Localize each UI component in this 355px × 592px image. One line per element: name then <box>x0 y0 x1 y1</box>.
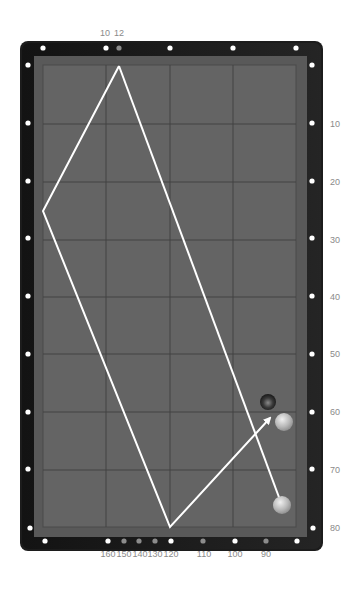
diamond-icon <box>25 466 30 471</box>
diamond-icon <box>309 351 314 356</box>
diamond-icon <box>25 351 30 356</box>
right-label: 60 <box>330 407 340 417</box>
bottom-label: 140 <box>132 549 147 559</box>
diamond-icon <box>168 538 173 543</box>
diamond-icon <box>309 466 314 471</box>
bottom-label: 160 <box>100 549 115 559</box>
bottom-label: 90 <box>261 549 271 559</box>
diamond-icon <box>309 62 314 67</box>
diamond-icon <box>309 409 314 414</box>
diamond-icon <box>25 409 30 414</box>
diamond-icon <box>230 45 235 50</box>
bottom-label: 110 <box>197 549 211 559</box>
diamond-icon <box>42 538 47 543</box>
diamond-icon <box>25 178 30 183</box>
right-label: 70 <box>330 465 340 475</box>
right-labels: 10 20 30 40 50 60 70 80 <box>330 119 340 533</box>
diamond-icon <box>103 45 108 50</box>
marker-icon <box>152 538 157 543</box>
bottom-label: 130 <box>147 549 162 559</box>
right-label: 10 <box>330 119 340 129</box>
diamond-icon <box>232 538 237 543</box>
aim-marker-icon <box>116 45 121 50</box>
right-label: 30 <box>330 235 340 245</box>
right-label: 80 <box>330 523 340 533</box>
diamond-icon <box>293 45 298 50</box>
diamond-icon <box>25 120 30 125</box>
top-label: 10 <box>100 28 110 38</box>
billiard-table-view: 10 12 10 20 30 40 50 60 70 80 160 150 14… <box>0 0 355 592</box>
diamond-icon <box>40 45 45 50</box>
diamond-icon <box>167 45 172 50</box>
diamond-icon <box>309 235 314 240</box>
diamond-icon <box>310 525 315 530</box>
diamond-icon <box>294 538 299 543</box>
dark-ball[interactable] <box>260 394 276 410</box>
billiard-table-svg: 10 12 10 20 30 40 50 60 70 80 160 150 14… <box>0 0 355 592</box>
diamond-icon <box>309 178 314 183</box>
bottom-label: 100 <box>227 549 242 559</box>
marker-icon <box>136 538 141 543</box>
diamond-icon <box>105 538 110 543</box>
bottom-label: 150 <box>116 549 131 559</box>
bottom-label: 120 <box>163 549 178 559</box>
diamond-icon <box>309 120 314 125</box>
object-ball[interactable] <box>275 413 293 431</box>
diamond-icon <box>25 62 30 67</box>
diamond-icon <box>27 525 32 530</box>
marker-icon <box>200 538 205 543</box>
cue-ball[interactable] <box>273 496 291 514</box>
top-label: 12 <box>114 28 124 38</box>
marker-icon <box>263 538 268 543</box>
diamond-icon <box>25 293 30 298</box>
right-label: 50 <box>330 349 340 359</box>
right-label: 40 <box>330 292 340 302</box>
right-label: 20 <box>330 177 340 187</box>
marker-icon <box>121 538 126 543</box>
top-labels: 10 12 <box>100 28 124 38</box>
diamond-icon <box>309 293 314 298</box>
diamond-icon <box>25 235 30 240</box>
